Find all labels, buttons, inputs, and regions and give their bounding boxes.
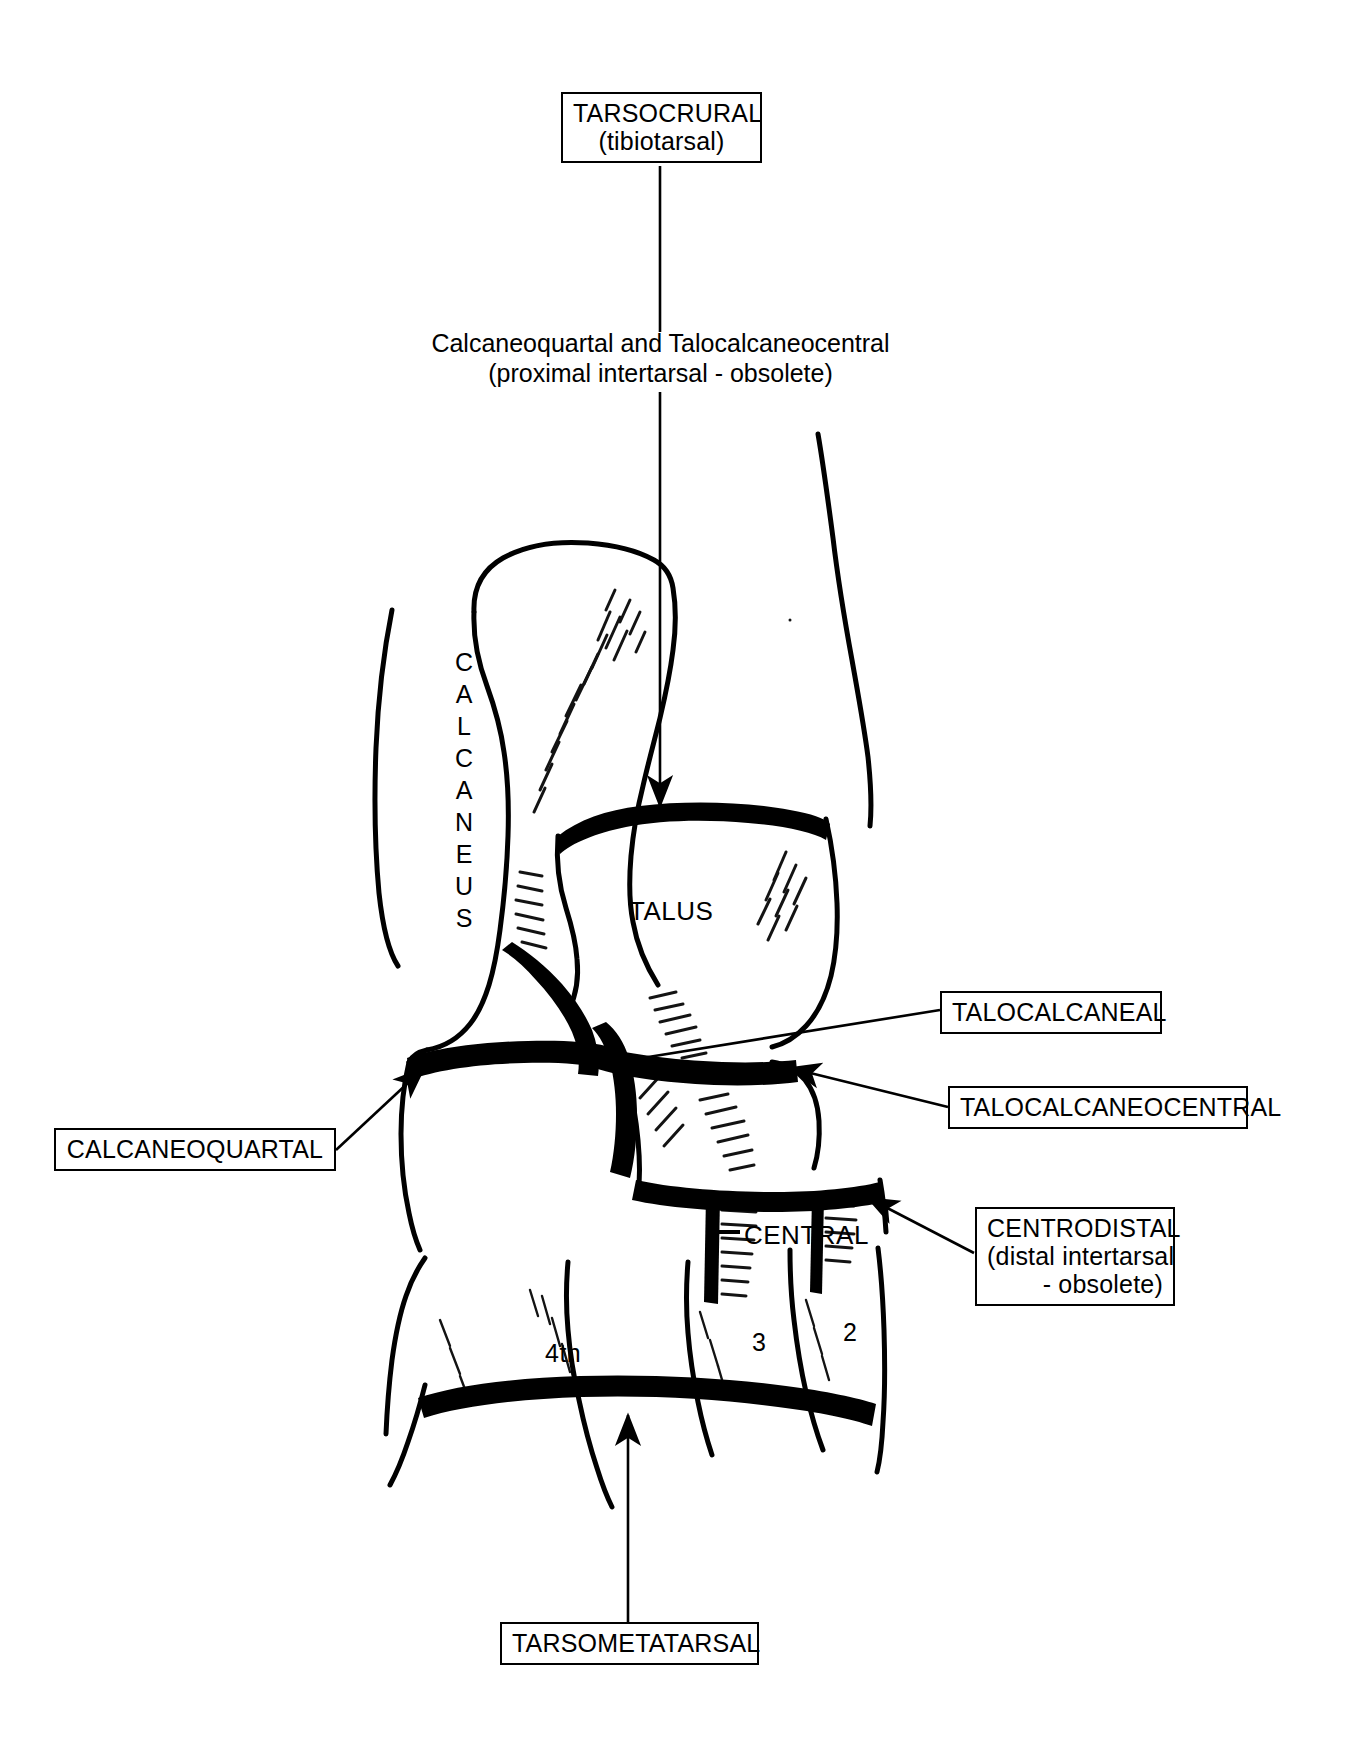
metatarsus-right-outline [877, 1248, 885, 1472]
callout-centrodistal-line2: (distal intertarsal [987, 1242, 1163, 1270]
callout-tarsometatarsal: TARSOMETATARSAL [500, 1622, 759, 1665]
bone-label-second-tarsal: 2 [843, 1318, 857, 1347]
bone-label-calcaneus: C A L C A N E U S [449, 650, 479, 938]
callout-tarsocrural-line2: (tibiotarsal) [573, 127, 750, 155]
anatomical-drawing [0, 0, 1351, 1749]
calcaneoquartal-leader-arrow [336, 1068, 424, 1150]
callout-tarsometatarsal-line1: TARSOMETATARSAL [512, 1629, 760, 1657]
calcaneus-letter-5: A [449, 778, 479, 810]
calcaneus-letter-2: A [449, 682, 479, 714]
tarsometatarsal-joint-band [418, 1375, 876, 1426]
callout-calcaneoquartal-line1: CALCANEOQUARTAL [67, 1135, 323, 1163]
calcaneus-letter-7: E [449, 842, 479, 874]
calcaneus-letter-4: C [449, 746, 479, 778]
third-tarsal-dark-edge [704, 1196, 720, 1304]
calcaneus-letter-3: L [449, 714, 479, 746]
bone-label-talus: TALUS [629, 896, 713, 927]
label-proximal-intertarsal-line1: Calcaneoquartal and Talocalcaneocentral [393, 328, 928, 358]
callout-calcaneoquartal: CALCANEOQUARTAL [54, 1128, 336, 1171]
callout-talocalcaneocentral-line1: TALOCALCANEOCENTRAL [960, 1093, 1281, 1121]
calcaneus-letter-9: S [449, 906, 479, 938]
label-proximal-intertarsal: Calcaneoquartal and Talocalcaneocentral … [393, 328, 928, 388]
sustentaculum-outline [375, 610, 398, 966]
bone-label-fourth-tarsal: 4th [545, 1339, 581, 1368]
calcaneus-letter-8: U [449, 874, 479, 906]
callout-centrodistal-line3: - obsolete) [987, 1270, 1163, 1298]
bone-label-central: CENTRAL [744, 1220, 869, 1251]
calcaneus-letter-6: N [449, 810, 479, 842]
centrodistal-joint-band [632, 1180, 884, 1212]
callout-centrodistal: CENTRODISTAL (distal intertarsal - obsol… [975, 1207, 1175, 1306]
callout-talocalcaneocentral: TALOCALCANEOCENTRAL [948, 1086, 1248, 1129]
callout-tarsocrural: TARSOCRURAL (tibiotarsal) [561, 92, 762, 163]
talus-outline-right [772, 819, 837, 1047]
label-proximal-intertarsal-line2: (proximal intertarsal - obsolete) [393, 358, 928, 388]
bone-label-third-tarsal: 3 [752, 1328, 766, 1357]
calcaneus-letter-1: C [449, 650, 479, 682]
bone-outlines [375, 434, 886, 1507]
tibia-outline [818, 434, 871, 826]
trabecular-hatching [440, 590, 856, 1400]
callout-talocalcaneal: TALOCALCANEAL [940, 991, 1162, 1034]
callout-tarsocrural-line1: TARSOCRURAL [573, 99, 762, 127]
tarsal-joints-figure: TARSOCRURAL (tibiotarsal) TALOCALCANEAL … [0, 0, 1351, 1749]
callout-centrodistal-line1: CENTRODISTAL [987, 1214, 1163, 1242]
fourth-tarsal-left [401, 1062, 420, 1250]
callout-talocalcaneal-line1: TALOCALCANEAL [952, 998, 1167, 1026]
tarsocrural-joint-band [558, 803, 830, 854]
